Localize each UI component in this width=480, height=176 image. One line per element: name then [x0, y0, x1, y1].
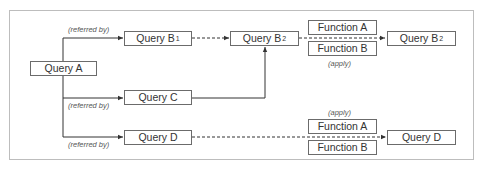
node-subscript: 2 [282, 35, 286, 42]
node-query-d-output: Query D [387, 130, 456, 145]
node-label: Query A [45, 63, 83, 74]
node-label: Query C [138, 92, 177, 103]
node-subscript: 1 [176, 35, 180, 42]
node-function-b-top: Function B [308, 41, 377, 56]
edge-label-referred-by-d: (referred by) [68, 140, 109, 149]
node-label: Function A [318, 121, 368, 132]
node-subscript: 2 [439, 35, 443, 42]
node-query-b2: Query B2 [230, 31, 299, 46]
node-label: Function A [318, 22, 368, 33]
node-function-a-bottom: Function A [308, 119, 377, 134]
edge-label-apply-top: (apply) [328, 59, 351, 68]
node-query-a: Query A [30, 61, 97, 76]
node-label: Query D [138, 132, 177, 143]
node-function-b-bottom: Function B [308, 140, 377, 155]
node-function-a-top: Function A [308, 20, 377, 35]
edge-label-referred-by-b1: (referred by) [68, 25, 109, 34]
node-label: Query B [400, 33, 439, 44]
node-label: Function B [317, 43, 367, 54]
edge-label-apply-bottom: (apply) [328, 108, 351, 117]
node-query-d: Query D [124, 130, 192, 145]
node-query-b1: Query B1 [124, 31, 192, 46]
node-label: Function B [317, 142, 367, 153]
node-label: Query D [402, 132, 441, 143]
node-label: Query B [136, 33, 175, 44]
edge-label-referred-by-c: (referred by) [68, 101, 109, 110]
node-query-c: Query C [124, 90, 192, 105]
node-query-b2-output: Query B2 [387, 31, 456, 46]
node-label: Query B [243, 33, 282, 44]
